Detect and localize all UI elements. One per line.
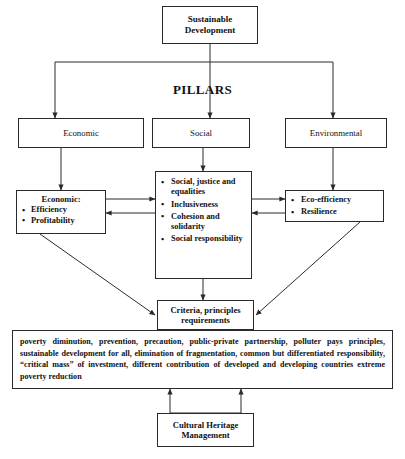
economic-detail-header: Economic: — [21, 194, 101, 204]
list-item: Eco-efficiency — [288, 195, 379, 205]
list-item: Social, justice and equalities — [158, 177, 247, 198]
social-detail-list: Social, justice and equalities Inclusive… — [158, 177, 247, 245]
list-item: Profitability — [21, 216, 101, 226]
pillar-label-economic: Economic — [63, 128, 99, 138]
cultural-heritage-line2: Management — [181, 430, 229, 440]
criteria-line2: requirements — [181, 315, 230, 325]
cultural-heritage-line1: Cultural Heritage — [173, 420, 239, 430]
list-item: Inclusiveness — [158, 200, 247, 210]
social-detail-box: Social, justice and equalities Inclusive… — [155, 171, 252, 279]
list-item: Social responsibility — [158, 234, 247, 244]
connector-economic-to-criteria — [40, 234, 155, 315]
pillar-label-environmental: Environmental — [310, 128, 362, 138]
principles-text-box: poverty diminution, prevention, precauti… — [12, 330, 393, 389]
pillar-box-environmental: Environmental — [285, 118, 387, 148]
criteria-principles-box: Criteria, principles requirements — [157, 300, 254, 330]
environmental-detail-list: Eco-efficiency Resilience — [288, 195, 379, 218]
pillars-label: PILLARS — [0, 82, 405, 98]
environmental-detail-box: Eco-efficiency Resilience — [285, 190, 384, 222]
economic-detail-box: Economic: Efficiency Profitability — [16, 190, 106, 234]
criteria-line1: Criteria, principles — [170, 305, 240, 315]
sustainable-development-line1: Sustainable — [188, 14, 233, 25]
pillar-box-social: Social — [152, 118, 250, 148]
diagram-canvas: Sustainable Development PILLARS Economic… — [0, 0, 405, 459]
list-item: Resilience — [288, 207, 379, 217]
list-item: Efficiency — [21, 205, 101, 215]
pillar-label-social: Social — [190, 128, 212, 138]
list-item: Cohesion and solidarity — [158, 212, 247, 233]
sustainable-development-box: Sustainable Development — [162, 6, 258, 44]
connector-environmental-to-criteria — [256, 222, 360, 315]
pillar-box-economic: Economic — [18, 118, 144, 148]
sustainable-development-line2: Development — [185, 25, 236, 36]
economic-detail-list: Efficiency Profitability — [21, 205, 101, 226]
cultural-heritage-management-box: Cultural Heritage Management — [157, 413, 254, 447]
